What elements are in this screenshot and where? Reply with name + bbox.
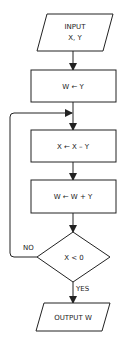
decision-label: X < 0 (64, 254, 84, 262)
input-label-2: X, Y (68, 34, 82, 42)
yes-label: YES (75, 285, 90, 293)
input-shape (37, 14, 113, 51)
flowchart-diagram: INPUT X, Y W ← Y X ← X – Y W ← W + Y X <… (0, 0, 125, 343)
step2-label: X ← X – Y (57, 143, 90, 151)
no-label: NO (23, 244, 34, 252)
step1-label: W ← Y (62, 83, 84, 91)
input-label-1: INPUT (65, 23, 87, 31)
step3-label: W ← W + Y (54, 193, 93, 201)
output-label: OUTPUT W (54, 314, 92, 322)
